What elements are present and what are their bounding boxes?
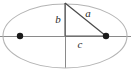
label-b: b: [55, 13, 61, 25]
ellipse-diagram-canvas: b a c: [0, 0, 131, 75]
right-focus-point: [103, 33, 109, 39]
left-focus-point: [17, 33, 23, 39]
label-c: c: [78, 38, 83, 50]
ellipse-diagram: b a c: [0, 0, 131, 75]
label-a: a: [85, 7, 91, 19]
